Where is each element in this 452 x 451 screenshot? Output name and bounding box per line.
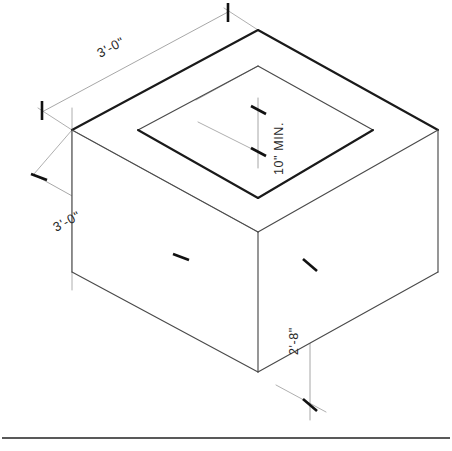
dim-label-height: 2'-8"	[287, 327, 301, 355]
ext-line-height-lower	[276, 385, 326, 412]
dim-label-top-width: 3'-0"	[94, 34, 127, 61]
drawing-sheet: 3'-0" 3'-0" 10" MIN. 2'-8"	[0, 0, 452, 451]
box-solid	[72, 30, 438, 372]
tick-left-depth-upper	[31, 174, 47, 180]
isometric-drawing-canvas: 3'-0" 3'-0" 10" MIN. 2'-8"	[0, 0, 452, 451]
ext-line-left-depth-upper	[34, 130, 72, 174]
dim-label-opening-wall: 10" MIN.	[272, 122, 286, 175]
